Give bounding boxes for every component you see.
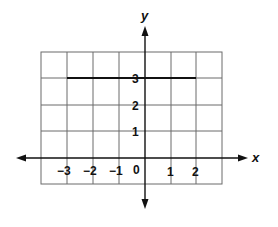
x-tick-label: −1 xyxy=(109,164,123,178)
y-tick-label: 2 xyxy=(132,99,139,113)
y-axis-down-arrow-icon xyxy=(142,199,149,209)
y-axis-label: y xyxy=(140,8,149,23)
y-tick-label: 1 xyxy=(132,125,139,139)
y-axis xyxy=(142,26,149,209)
x-tick-label: 2 xyxy=(192,165,199,179)
x-tick-label: 1 xyxy=(167,165,174,179)
x-axis-label: x xyxy=(251,150,260,165)
graph-svg: y x −3 −2 −1 0 1 2 1 2 3 xyxy=(0,0,278,227)
x-tick-label: −2 xyxy=(83,164,97,178)
y-axis-up-arrow-icon xyxy=(142,26,149,36)
y-tick-label: 3 xyxy=(132,72,139,86)
x-axis xyxy=(16,155,248,162)
x-axis-right-arrow-icon xyxy=(238,155,248,162)
origin-label: 0 xyxy=(133,163,140,177)
x-axis-left-arrow-icon xyxy=(16,155,26,162)
coordinate-plane: y x −3 −2 −1 0 1 2 1 2 3 xyxy=(0,0,278,227)
x-tick-label: −3 xyxy=(57,164,71,178)
